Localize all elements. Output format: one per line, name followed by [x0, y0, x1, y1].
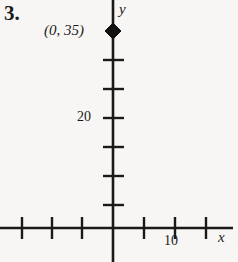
point-coordinate-label: (0, 35) — [44, 23, 84, 38]
x-axis-tick-label-10: 10 — [164, 234, 178, 248]
problem-number: 3. — [4, 3, 20, 24]
graph-figure: 3. (0, 35) y x 20 10 — [0, 0, 238, 262]
y-axis-label: y — [119, 2, 126, 17]
data-point-marker — [105, 23, 121, 39]
coordinate-plane-svg — [0, 0, 238, 262]
x-axis-label: x — [218, 230, 225, 245]
y-axis-tick-label-20: 20 — [77, 110, 91, 124]
